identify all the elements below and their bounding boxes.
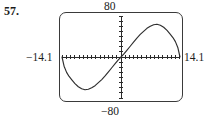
window-xmin-label: −14.1 bbox=[26, 52, 53, 64]
graphing-calculator-screen bbox=[59, 12, 183, 102]
window-ymax-label: 80 bbox=[104, 1, 116, 13]
problem-number-label: 57. bbox=[4, 5, 19, 17]
window-ymin-label: −80 bbox=[101, 106, 119, 118]
graph-plot-area bbox=[60, 13, 182, 101]
window-xmax-label: 14.1 bbox=[184, 52, 204, 64]
exercise-figure: 57. 80 −80 −14.1 14.1 bbox=[0, 0, 207, 120]
